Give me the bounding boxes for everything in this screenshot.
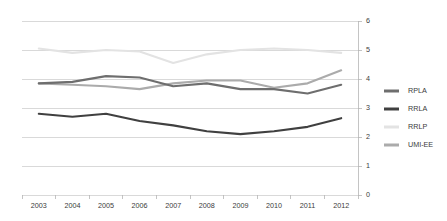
y-axis-labels: 0123456 bbox=[366, 16, 370, 199]
legend-label-rpla: RPLA bbox=[408, 86, 427, 95]
x-axis-label: 2005 bbox=[98, 201, 114, 210]
x-axis-label: 2004 bbox=[64, 201, 80, 210]
series-group bbox=[39, 49, 341, 135]
y-axis-label: 3 bbox=[366, 103, 370, 112]
y-axis-label: 0 bbox=[366, 190, 370, 199]
y-axis-label: 2 bbox=[366, 132, 370, 141]
x-axis-label: 2007 bbox=[165, 201, 181, 210]
x-axis-label: 2008 bbox=[199, 201, 215, 210]
chart-canvas: 0123456 20032004200520062007200820092010… bbox=[0, 0, 447, 221]
legend-label-rrlp: RRLP bbox=[408, 122, 427, 131]
y-axis-label: 4 bbox=[366, 74, 370, 83]
x-axis-labels: 2003200420052006200720082009201020112012 bbox=[31, 201, 349, 210]
legend-group: RPLARRLARRLPUMI-EE bbox=[384, 86, 433, 149]
y-axis-label: 5 bbox=[366, 45, 370, 54]
series-line-rrla bbox=[39, 114, 341, 134]
x-axis-label: 2011 bbox=[300, 201, 315, 210]
x-axis-label: 2012 bbox=[333, 201, 349, 210]
legend-label-rrla: RRLA bbox=[408, 104, 427, 113]
y-axis-label: 1 bbox=[366, 161, 370, 170]
x-axis-label: 2006 bbox=[132, 201, 148, 210]
gridlines-group bbox=[22, 21, 358, 195]
x-axis-label: 2003 bbox=[31, 201, 47, 210]
x-axis-label: 2009 bbox=[232, 201, 248, 210]
line-chart: 0123456 20032004200520062007200820092010… bbox=[0, 0, 447, 221]
legend-label-umi-ee: UMI-EE bbox=[408, 140, 433, 149]
y-axis-label: 6 bbox=[366, 16, 370, 25]
x-axis-label: 2010 bbox=[266, 201, 282, 210]
axis-group bbox=[22, 21, 362, 199]
series-line-rrlp bbox=[39, 49, 341, 64]
